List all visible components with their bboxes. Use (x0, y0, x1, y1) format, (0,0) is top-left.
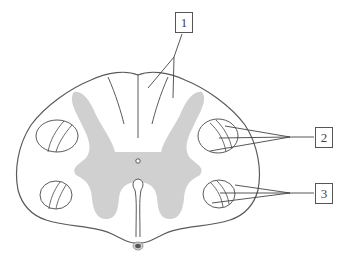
label-3-text: 3 (321, 186, 328, 202)
label-1-text: 1 (181, 15, 188, 31)
spinal-cord-diagram (0, 0, 350, 261)
label-box-3: 3 (315, 183, 333, 204)
label-box-1: 1 (175, 12, 193, 33)
label-box-2: 2 (315, 127, 333, 148)
right-lateral-tract (198, 119, 238, 153)
central-canal (136, 159, 140, 163)
left-lateral-tract (36, 120, 78, 152)
label-2-text: 2 (321, 130, 328, 146)
right-anterolateral-tract (203, 180, 235, 208)
vessel-lumen (135, 244, 141, 248)
left-anterolateral-tract (40, 181, 72, 209)
